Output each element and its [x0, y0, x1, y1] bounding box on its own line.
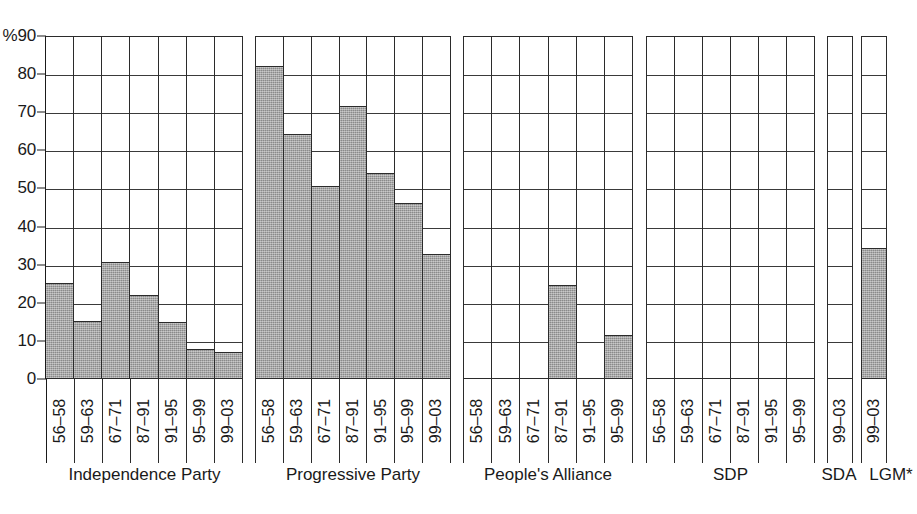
x-tick-label: 56–58	[53, 399, 69, 444]
chart-panel: 99–03	[827, 36, 853, 379]
x-tick-label: 59–63	[681, 399, 697, 444]
bar	[605, 335, 632, 378]
x-tick-label: 91–95	[582, 399, 598, 444]
x-tick-label: 56–58	[470, 399, 486, 444]
x-tick-labels: 56–5859–6367–7187–9191–9595–9999–03	[46, 379, 243, 463]
bar-slot	[130, 37, 158, 378]
bar	[340, 106, 367, 378]
bar-slot	[647, 37, 675, 378]
bar-slot	[367, 37, 395, 378]
chart-panel: 56–5859–6367–7187–9191–9595–99	[646, 36, 815, 379]
bar-slot	[395, 37, 423, 378]
x-tick-cell: 95–99	[395, 379, 423, 463]
y-tick-label: 10	[17, 331, 36, 351]
x-tick-labels: 56–5859–6367–7187–9191–9595–99	[646, 379, 815, 463]
bar	[215, 352, 242, 378]
bar	[367, 173, 394, 378]
bars-layer	[256, 37, 450, 378]
bar-slot	[577, 37, 605, 378]
x-tick-label: 95–99	[401, 399, 417, 444]
x-tick-cell: 67–71	[703, 379, 731, 463]
bar-slot	[74, 37, 102, 378]
bar	[256, 66, 283, 378]
bar-slot	[862, 37, 886, 378]
bar-slot	[256, 37, 284, 378]
bar-slot	[787, 37, 814, 378]
bar	[862, 248, 886, 378]
bar	[130, 295, 157, 378]
y-tick-label: 50	[17, 178, 36, 198]
x-tick-cell: 99–03	[215, 379, 242, 463]
x-tick-label: 67–71	[709, 399, 725, 444]
chart-panel: 56–5859–6367–7187–9191–9595–9999–03	[46, 36, 243, 379]
x-tick-cell: 56–58	[256, 379, 284, 463]
bar-slot	[605, 37, 632, 378]
bar	[74, 321, 101, 378]
bar-slot	[520, 37, 548, 378]
x-tick-label: 59–63	[81, 399, 97, 444]
x-tick-cell: 99–03	[828, 379, 852, 463]
bar	[549, 285, 576, 378]
panel-caption: Progressive Party	[255, 466, 451, 483]
bars-layer	[46, 37, 242, 378]
bar-slot	[340, 37, 368, 378]
x-tick-cell: 95–99	[187, 379, 215, 463]
panel-caption: Independence Party	[46, 466, 243, 483]
x-tick-cell: 95–99	[787, 379, 814, 463]
x-tick-cell: 87–91	[549, 379, 577, 463]
x-tick-label: 87–91	[137, 399, 153, 444]
bar-slot	[284, 37, 312, 378]
plot-area	[646, 36, 815, 379]
bar-slot	[828, 37, 852, 378]
plot-area	[827, 36, 853, 379]
x-tick-label: 99–03	[429, 399, 445, 444]
x-tick-labels: 99–03	[827, 379, 853, 463]
y-tick-label: 60	[17, 140, 36, 160]
x-tick-cell: 99–03	[423, 379, 450, 463]
x-tick-cell: 59–63	[75, 379, 103, 463]
plot-area	[861, 36, 887, 379]
y-axis: %9080706050403020100	[0, 0, 46, 514]
x-tick-labels: 56–5859–6367–7187–9191–9595–9999–03	[255, 379, 451, 463]
x-tick-cell: 91–95	[159, 379, 187, 463]
x-tick-cell: 91–95	[367, 379, 395, 463]
bar-slot	[187, 37, 215, 378]
plot-area	[46, 36, 243, 379]
bar-slot	[423, 37, 450, 378]
y-tick-label: 30	[17, 255, 36, 275]
panel-caption: SDP	[646, 466, 815, 483]
x-tick-label: 95–99	[193, 399, 209, 444]
x-tick-label: 56–58	[653, 399, 669, 444]
y-tick-label: 40	[17, 217, 36, 237]
panel-caption: LGM*	[852, 466, 917, 483]
x-tick-labels: 56–5859–6367–7187–9191–9595–99	[463, 379, 633, 463]
x-tick-labels: 99–03	[861, 379, 887, 463]
bar	[312, 186, 339, 378]
chart-panel: 56–5859–6367–7187–9191–9595–9999–03	[255, 36, 451, 379]
x-tick-label: 87–91	[737, 399, 753, 444]
bar-slot	[46, 37, 74, 378]
bars-layer	[464, 37, 632, 378]
x-tick-cell: 59–63	[675, 379, 703, 463]
x-tick-label: 67–71	[317, 399, 333, 444]
bar-slot	[159, 37, 187, 378]
x-tick-cell: 56–58	[464, 379, 492, 463]
bar-slot	[703, 37, 731, 378]
x-tick-cell: 56–58	[47, 379, 75, 463]
x-tick-label: 59–63	[289, 399, 305, 444]
x-tick-label: 99–03	[221, 399, 237, 444]
x-tick-label: 56–58	[261, 399, 277, 444]
x-tick-cell: 67–71	[520, 379, 548, 463]
x-tick-label: 99–03	[832, 399, 848, 444]
bars-layer	[828, 37, 852, 378]
x-tick-label: 67–71	[109, 399, 125, 444]
bar	[395, 203, 422, 378]
chart-panel: 56–5859–6367–7187–9191–9595–99	[463, 36, 633, 379]
x-tick-cell: 67–71	[312, 379, 340, 463]
x-tick-cell: 99–03	[862, 379, 886, 463]
x-tick-label: 67–71	[526, 399, 542, 444]
panel-group: 56–5859–6367–7187–9191–9595–9999–0356–58…	[46, 36, 884, 379]
x-tick-cell: 67–71	[103, 379, 131, 463]
x-tick-cell: 87–91	[340, 379, 368, 463]
